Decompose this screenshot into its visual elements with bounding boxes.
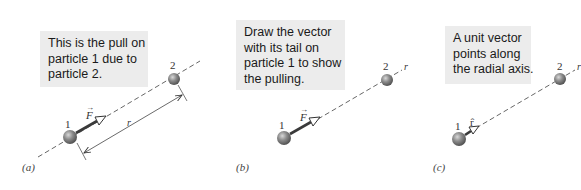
distance-label: r [127,117,131,128]
callout-line: particle 2. [48,67,140,83]
particle-2 [168,73,180,85]
callout-line: the radial axis. [453,62,523,78]
callout-panel-a: This is the pull on particle 1 due to pa… [40,31,148,87]
coulomb-force-figure: 1 2 F → r (a) 1 2 F → r (b) 1 2 r̂ r (c)… [0,0,581,190]
particle-2 [381,74,393,86]
callout-line: particle 1 due to [48,52,140,68]
force-vector-arrowhead-icon [309,117,320,126]
callout-panel-b: Draw the vector with its tail on particl… [236,20,345,90]
particle-1 [452,132,466,146]
unit-vector-shaft [465,131,471,135]
panel-c-label: (c) [433,161,446,174]
panel-b-label: (b) [236,161,249,174]
vector-arrow-accent: → [86,103,94,112]
particle-1 [63,130,77,144]
callout-line: points along [453,47,523,63]
vector-arrow-accent: → [300,105,308,114]
axis-label: r [577,61,581,72]
particle-1-label: 1 [279,119,285,131]
callout-line: This is the pull on [48,36,140,52]
particle-2-label: 2 [557,60,563,72]
panel-a-label: (a) [22,161,35,174]
callout-line: particle 1 to show [244,56,337,72]
particle-2-label: 2 [170,59,176,71]
distance-tick-start [77,143,86,160]
callout-line: Draw the vector [244,25,337,41]
callout-line: the pulling. [244,72,337,88]
particle-1-label: 1 [455,120,461,132]
particle-2-label: 2 [383,60,389,72]
force-vector-shaft [76,121,97,133]
callout-line: A unit vector [453,31,523,47]
force-vector-arrowhead-icon [95,116,106,125]
callout-panel-c: A unit vector points along the radial ax… [445,26,531,84]
particle-2 [554,73,566,85]
axis-label: r [404,61,408,72]
particle-1-label: 1 [65,118,71,130]
distance-tick-end [178,85,187,101]
callout-line: with its tail on [244,41,337,57]
particle-1 [277,131,291,145]
force-vector-shaft [290,122,311,134]
